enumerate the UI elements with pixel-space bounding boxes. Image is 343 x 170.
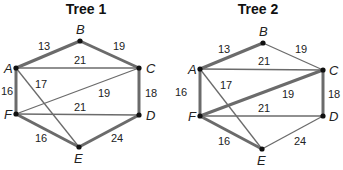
tree-1-graph: 13192116171918211624ABCDEF	[0, 0, 172, 170]
tree-2-graph: 13192116171918211624ABCDEF	[172, 0, 343, 170]
tree-2-weight-cd: 18	[328, 88, 340, 100]
tree-2-weight-af: 16	[175, 86, 187, 98]
tree-1-edge-ed	[79, 115, 139, 147]
tree-1-node-d	[136, 112, 141, 117]
tree-2-weight-fc: 19	[282, 88, 294, 100]
tree-2-node-label-d: D	[329, 109, 338, 124]
tree-1-weight-af: 16	[1, 85, 13, 97]
tree-2-edge-fe	[200, 116, 262, 149]
tree-1-node-a	[13, 65, 18, 70]
tree-1-weight-fd: 21	[74, 101, 86, 113]
tree-2-edge-ed	[262, 116, 323, 149]
tree-2-node-f	[197, 113, 202, 118]
tree-1-node-b	[77, 38, 82, 43]
tree-2-node-label-e: E	[257, 153, 266, 168]
tree-2-node-label-c: C	[329, 63, 339, 78]
tree-1-edge-fd	[16, 114, 139, 115]
tree-1-weight-ab: 13	[38, 40, 50, 52]
tree-2-node-b	[260, 40, 265, 45]
tree-1-node-c	[136, 65, 141, 70]
tree-1-node-f	[13, 111, 18, 116]
tree-2-node-e	[259, 146, 264, 151]
tree-1-weight-ed: 24	[111, 132, 123, 144]
tree-1-edge-ae	[16, 68, 79, 147]
tree-2-weight-ab: 13	[218, 43, 230, 55]
tree-2-node-d	[320, 113, 325, 118]
tree-1-node-label-d: D	[146, 108, 155, 123]
tree-2-weight-ac: 21	[258, 55, 270, 67]
tree-1-edge-fe	[16, 114, 79, 147]
tree-1-node-label-e: E	[74, 151, 83, 166]
tree-1-weight-fe: 16	[35, 132, 47, 144]
tree-1-node-label-c: C	[146, 61, 156, 76]
tree-2-node-a	[197, 66, 202, 71]
tree-2-weight-bc: 19	[295, 43, 307, 55]
tree-1-weight-bc: 19	[113, 40, 125, 52]
tree-2-edge-ab	[200, 43, 263, 69]
tree-1-edge-bc	[80, 41, 139, 68]
tree-2-node-label-b: B	[259, 24, 268, 39]
tree-2-weight-ae: 17	[220, 79, 232, 91]
tree-2-weight-fd: 21	[258, 102, 270, 114]
tree-1-panel: Tree 1 13192116171918211624ABCDEF	[0, 0, 172, 170]
tree-1-node-label-f: F	[4, 107, 13, 122]
tree-1-weight-cd: 18	[145, 87, 157, 99]
tree-1-node-label-b: B	[76, 22, 85, 37]
tree-2-weight-fe: 16	[218, 135, 230, 147]
tree-2-edge-bc	[263, 43, 323, 70]
tree-2-node-label-f: F	[188, 109, 197, 124]
tree-1-weight-ac: 21	[74, 54, 86, 66]
tree-1-weight-ae: 17	[35, 78, 47, 90]
tree-1-node-label-a: A	[3, 61, 13, 76]
tree-2-node-label-a: A	[187, 62, 197, 77]
tree-2-weight-ed: 24	[294, 135, 306, 147]
tree-1-weight-fc: 19	[98, 87, 110, 99]
tree-2-edge-ac	[200, 69, 323, 70]
tree-2-node-c	[320, 67, 325, 72]
tree-2-panel: Tree 2 13192116171918211624ABCDEF	[172, 0, 343, 170]
tree-1-node-e	[76, 144, 81, 149]
